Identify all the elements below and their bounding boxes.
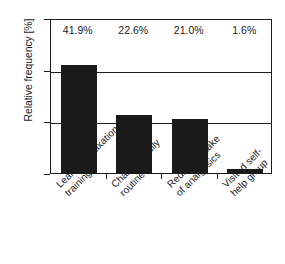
x-tick-mark: [106, 174, 107, 179]
y-tick-mark: [44, 174, 50, 175]
value-label: 22.6%: [106, 24, 162, 36]
x-tick-mark: [217, 174, 218, 179]
value-label: 21.0%: [161, 24, 217, 36]
y-axis-title: Relative frequency [%]: [22, 0, 34, 145]
value-label: 41.9%: [50, 24, 106, 36]
value-label: 1.6%: [217, 24, 273, 36]
bar-chart-figure: Relative frequency [%] 0204060 41.9%22.6…: [0, 0, 285, 264]
x-tick-mark: [161, 174, 162, 179]
